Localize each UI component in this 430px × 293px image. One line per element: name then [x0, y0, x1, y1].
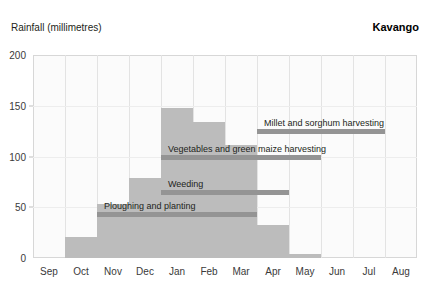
activity-annotation-label: Ploughing and planting	[104, 201, 196, 211]
x-axis-tick-label: Mar	[232, 266, 249, 277]
x-axis-tick-label: Jan	[169, 266, 185, 277]
x-axis-tick-label: Dec	[136, 266, 154, 277]
activity-annotation: Ploughing and planting	[97, 198, 257, 217]
activity-annotation-bar	[161, 190, 289, 195]
activity-annotation: Millet and sorghum harvesting	[257, 115, 385, 134]
y-axis-tick-label: 150	[0, 100, 26, 111]
activity-annotation-label: Vegetables and green maize harvesting	[168, 144, 326, 154]
x-axis-tick-label: Sep	[40, 266, 58, 277]
y-axis-tick-mark	[29, 156, 33, 157]
activity-annotation-bar	[257, 129, 385, 134]
y-axis-tick-label: 100	[0, 151, 26, 162]
activity-annotation-label: Weeding	[168, 179, 203, 189]
x-axis-tick-label: May	[296, 266, 315, 277]
x-axis-tick-label: Jul	[363, 266, 376, 277]
y-axis-tick-label: 50	[0, 202, 26, 213]
y-axis-title: Rainfall (millimetres)	[11, 22, 102, 33]
x-axis-tick-label: Jun	[329, 266, 345, 277]
x-axis-tick-label: Feb	[200, 266, 217, 277]
x-axis-tick-label: Oct	[73, 266, 89, 277]
bar	[129, 178, 161, 258]
x-axis-tick-label: Aug	[392, 266, 410, 277]
activity-annotation: Weeding	[161, 176, 289, 195]
bar	[257, 225, 289, 258]
activity-annotation-label: Millet and sorghum harvesting	[264, 118, 384, 128]
y-axis-tick-mark	[29, 105, 33, 106]
activity-annotation: Vegetables and green maize harvesting	[161, 141, 321, 160]
y-axis-tick-mark	[29, 207, 33, 208]
bar	[289, 254, 321, 258]
chart-plot-area: 050100150200 SepOctNovDecJanFebMarAprMay…	[33, 55, 417, 258]
y-axis-tick-label: 200	[0, 50, 26, 61]
x-axis-tick-label: Nov	[104, 266, 122, 277]
chart-header: Rainfall (millimetres) Kavango	[0, 0, 430, 46]
page-title: Kavango	[373, 21, 419, 33]
activity-annotation-bar	[161, 155, 321, 160]
y-axis-tick-label: 0	[0, 253, 26, 264]
activity-annotation-bar	[97, 212, 257, 217]
bar	[65, 237, 97, 258]
x-axis-tick-label: Apr	[265, 266, 281, 277]
horizontal-gridline	[33, 106, 417, 107]
